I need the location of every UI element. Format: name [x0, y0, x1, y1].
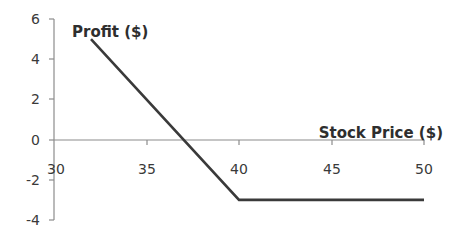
x-axis-title: Stock Price ($): [319, 124, 443, 142]
x-tick-45: 45: [323, 161, 341, 177]
profit-chart: 6 4 2 0 -2 -4 30 35 40 45 50 Profit ($) …: [0, 0, 465, 244]
x-tick-50: 50: [415, 161, 433, 177]
y-tick-0: 0: [31, 132, 40, 148]
y-axis: 6 4 2 0 -2 -4: [26, 11, 54, 228]
x-axis: 30 35 40 45 50: [47, 140, 433, 177]
y-tick-neg4: -4: [26, 212, 40, 228]
y-tick-neg2: -2: [26, 172, 40, 188]
x-tick-40: 40: [230, 161, 248, 177]
x-tick-35: 35: [138, 161, 156, 177]
x-tick-30: 30: [47, 161, 65, 177]
y-tick-6: 6: [31, 11, 40, 27]
y-tick-2: 2: [31, 91, 40, 107]
y-axis-title: Profit ($): [72, 23, 148, 41]
y-tick-4: 4: [31, 51, 40, 67]
